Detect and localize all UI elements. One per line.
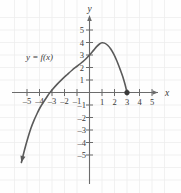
y-tick-label: –1 [77,100,87,110]
y-tick-label: 5 [80,25,84,35]
curve-label: y = f(x) [25,52,53,62]
graph-figure: –5 –4 –3 –2 –1 1 2 3 4 5 5 4 3 2 1 –1 –2… [0,0,181,193]
x-tick-label: –4 [34,96,44,106]
closed-endpoint-dot [124,90,129,95]
x-axis-label: x [164,88,170,98]
y-tick-label: 1 [80,75,84,85]
x-tick-label: 3 [125,97,129,107]
y-tick-label: –2 [77,113,87,123]
x-tick-label: –3 [47,96,57,106]
coordinate-plane: –5 –4 –3 –2 –1 1 2 3 4 5 5 4 3 2 1 –1 –2… [0,0,181,193]
x-tick-label: 5 [150,97,154,107]
x-tick-label: –5 [22,96,32,106]
y-tick-label: –5 [77,150,87,160]
y-tick-label: –3 [77,125,87,135]
y-tick-label: 3 [80,50,84,60]
y-axis-label: y [86,4,92,14]
x-tick-label: –2 [59,96,69,106]
x-tick-label: 1 [100,97,104,107]
y-tick-label: –4 [77,138,87,148]
x-tick-label: 2 [112,97,116,107]
